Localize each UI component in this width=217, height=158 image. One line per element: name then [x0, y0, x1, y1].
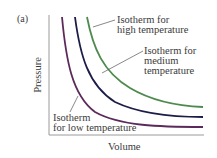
label-low-temperature: Isotherm for low temperature [53, 113, 136, 133]
label-high-line2: high temperature [117, 25, 188, 35]
label-medium-line3: temperature [144, 66, 196, 76]
label-medium-temperature: Isotherm for medium temperature [144, 46, 196, 76]
label-high-temperature: Isotherm for high temperature [117, 15, 188, 35]
leader-low [70, 96, 78, 112]
leader-medium [102, 51, 143, 73]
label-low-line2: for low temperature [53, 123, 136, 133]
panel-label: (a) [17, 14, 28, 24]
x-axis-label: Volume [108, 142, 140, 152]
leader-high [93, 20, 115, 27]
y-axis-label: Pressure [33, 57, 43, 93]
